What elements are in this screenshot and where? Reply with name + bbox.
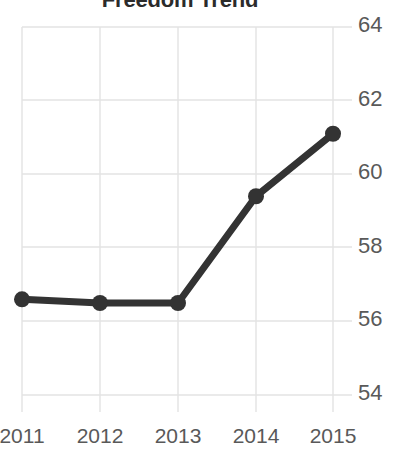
x-tick-label-2013: 2013 bbox=[143, 424, 213, 448]
y-tick-label-54: 54 bbox=[358, 380, 382, 406]
data-point-2011[interactable] bbox=[14, 291, 30, 307]
chart-canvas bbox=[0, 0, 403, 420]
plot-area bbox=[0, 0, 403, 420]
x-tick-label-2012: 2012 bbox=[65, 424, 135, 448]
y-tick-label-62: 62 bbox=[358, 86, 382, 112]
horizontal-gridlines bbox=[22, 27, 352, 395]
data-point-2014[interactable] bbox=[248, 188, 264, 204]
data-point-2013[interactable] bbox=[170, 295, 186, 311]
y-tick-label-60: 60 bbox=[358, 159, 382, 185]
data-point-2012[interactable] bbox=[92, 295, 108, 311]
x-tick-label-2011: 2011 bbox=[0, 424, 57, 448]
vertical-gridlines bbox=[22, 27, 333, 412]
chart-container: Freedom Trend 6462605 bbox=[0, 0, 403, 456]
x-tick-label-2015: 2015 bbox=[298, 424, 368, 448]
data-point-2015[interactable] bbox=[325, 126, 341, 142]
y-tick-label-64: 64 bbox=[358, 12, 382, 38]
x-tick-label-2014: 2014 bbox=[221, 424, 291, 448]
y-tick-label-58: 58 bbox=[358, 233, 382, 259]
y-tick-label-56: 56 bbox=[358, 306, 382, 332]
